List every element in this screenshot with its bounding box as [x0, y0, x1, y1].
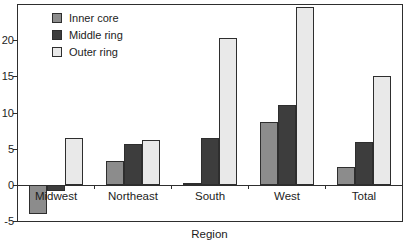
legend-item-inner-core: Inner core [52, 12, 119, 24]
x-tick-mark [171, 185, 172, 189]
plot-area: -505101520MidwestNortheastSouthWestTotal… [0, 0, 408, 240]
bar-west-middle-ring [278, 105, 296, 185]
y-tick-label: 5 [0, 143, 14, 155]
x-tick-mark [248, 185, 249, 189]
bar-west-inner-core [260, 122, 278, 185]
category-label-total: Total [324, 190, 404, 203]
legend-item-outer-ring: Outer ring [52, 46, 118, 58]
bar-total-inner-core [337, 167, 355, 185]
bar-total-outer-ring [373, 76, 391, 185]
y-tick-label: -5 [0, 215, 14, 227]
category-label-northeast: Northeast [93, 190, 173, 203]
outer-ring-swatch-icon [52, 47, 62, 57]
bar-northeast-outer-ring [142, 140, 160, 185]
bar-south-inner-core [183, 183, 201, 185]
category-label-south: South [170, 190, 250, 203]
category-label-midwest: Midwest [16, 190, 96, 203]
bar-northeast-middle-ring [124, 144, 142, 185]
inner-core-swatch-icon [52, 13, 62, 23]
y-tick-label: 15 [0, 70, 14, 82]
category-label-west: West [247, 190, 327, 203]
x-axis-title: Region [17, 228, 402, 240]
legend-label: Outer ring [69, 46, 118, 58]
legend-label: Middle ring [69, 29, 123, 41]
bar-chart: -505101520MidwestNortheastSouthWestTotal… [0, 0, 408, 240]
x-tick-mark [94, 185, 95, 189]
x-tick-mark [325, 185, 326, 189]
bar-west-outer-ring [296, 7, 314, 185]
legend-item-middle-ring: Middle ring [52, 29, 123, 41]
y-tick-label: 20 [0, 34, 14, 46]
bar-south-middle-ring [201, 138, 219, 185]
bar-northeast-inner-core [106, 161, 124, 185]
y-tick-label: 0 [0, 179, 14, 191]
bar-total-middle-ring [355, 142, 373, 185]
middle-ring-swatch-icon [52, 30, 62, 40]
bar-midwest-outer-ring [65, 138, 83, 185]
x-axis-baseline [17, 185, 402, 186]
y-tick-label: 10 [0, 107, 14, 119]
bar-south-outer-ring [219, 38, 237, 185]
legend-label: Inner core [69, 12, 119, 24]
